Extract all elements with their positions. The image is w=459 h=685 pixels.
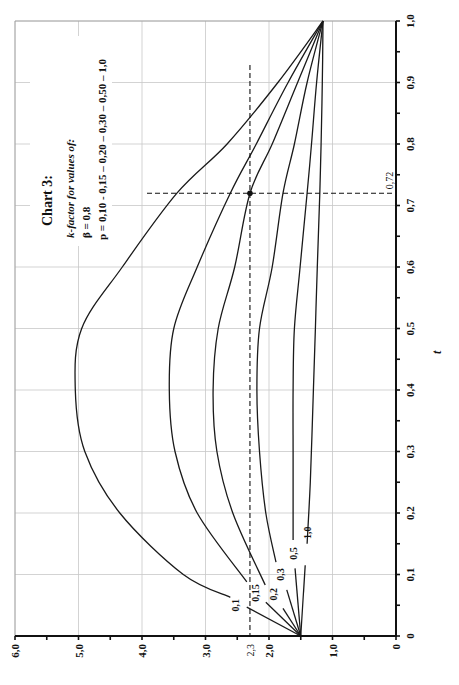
k-tick-label: 3,0 xyxy=(200,644,212,658)
curve-p-0,15 xyxy=(169,21,323,582)
t-tick-label: 0 xyxy=(404,633,416,639)
k-tick-label: 5,0 xyxy=(73,644,85,658)
k-tick-label: 1,0 xyxy=(327,644,339,658)
curve-label: 1,0 xyxy=(302,526,313,539)
subtitle-line-3: p = 0,10 - 0,15 – 0,20 – 0,30 – 0,50 – 1… xyxy=(96,58,108,240)
t-tick-label: 0,1 xyxy=(404,568,416,582)
t-tick-label: 0,6 xyxy=(404,260,416,274)
t-tick-label: 0,3 xyxy=(404,444,416,458)
k-tick-label: 0 xyxy=(390,644,402,650)
k-marker-label: 2,3 xyxy=(245,644,256,657)
subtitle-line-2: β = 0,8 xyxy=(80,206,92,238)
intersection-point xyxy=(247,190,253,196)
t-tick-label: 0,9 xyxy=(404,75,416,89)
curve-label: 0,15 xyxy=(250,584,261,602)
t-marker-label: 0,72 xyxy=(384,172,395,190)
t-tick-label: 0,4 xyxy=(404,383,416,397)
t-tick-label: 0,2 xyxy=(404,506,416,520)
curve-p-0,1 xyxy=(75,21,323,597)
curve-label: 0,5 xyxy=(288,547,299,560)
subtitle-line-1: k-factor for values of: xyxy=(64,139,76,238)
chart-canvas: 0,10,150,20,30,51,0 01,02,03,04,05,06,00… xyxy=(0,0,459,685)
annotation-markers xyxy=(147,65,396,636)
t-tick-label: 1,0 xyxy=(404,14,416,28)
curve-p-0,2 xyxy=(213,21,323,585)
chart-title: Chart 3: xyxy=(40,175,55,226)
t-tick-label: 0,8 xyxy=(404,137,416,151)
curve-start-p-1,0 xyxy=(301,565,305,636)
curve-label: 0,2 xyxy=(268,588,279,601)
curve-label: 0,3 xyxy=(275,568,286,581)
curve-label: 0,1 xyxy=(230,599,241,612)
t-tick-label: 0,5 xyxy=(404,321,416,335)
t-axis-title: t xyxy=(430,350,444,354)
k-tick-label: 2,0 xyxy=(263,644,275,658)
k-tick-label: 6,0 xyxy=(9,644,21,658)
curve-p-0,5 xyxy=(293,21,323,540)
t-tick-label: 0,7 xyxy=(404,198,416,212)
k-tick-label: 4,0 xyxy=(136,644,148,658)
